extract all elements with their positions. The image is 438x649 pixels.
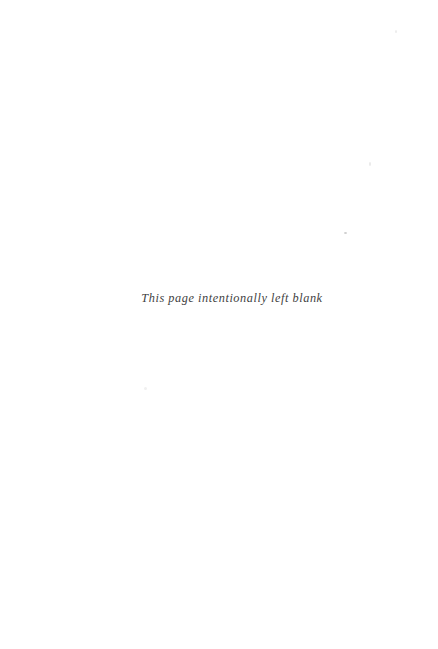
scan-speck-icon — [395, 30, 397, 33]
blank-page-notice: This page intentionally left blank — [0, 289, 438, 307]
scan-speck-icon — [369, 162, 371, 166]
scanned-page: This page intentionally left blank — [0, 0, 438, 649]
scan-speck-icon — [144, 387, 147, 390]
scan-speck-icon — [344, 232, 347, 234]
